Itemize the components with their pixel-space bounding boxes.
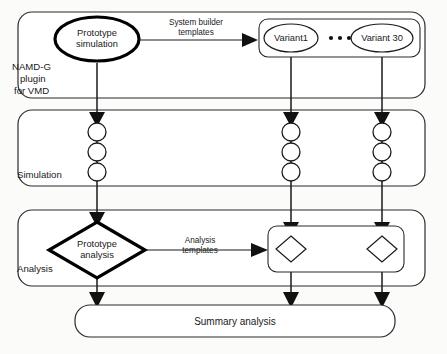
node-prototype-analysis-label-line1: Prototype [77, 239, 117, 249]
sim-step-lane2-1[interactable] [282, 123, 300, 141]
sim-step-lane3-2[interactable] [373, 143, 391, 161]
node-summary-analysis-label: Summary analysis [194, 316, 276, 327]
section-box-simulation [18, 110, 425, 186]
sim-step-lane1-2[interactable] [88, 143, 106, 161]
edge-analysis-templates-label-line2: templates [182, 246, 218, 255]
edge-analysis-templates-label-line1: Analysis [185, 236, 216, 245]
sim-step-lane1-1[interactable] [88, 123, 106, 141]
sim-step-lane1-3[interactable] [88, 163, 106, 181]
sim-step-lane3-1[interactable] [373, 123, 391, 141]
node-prototype-simulation-label-line2: simulation [76, 39, 118, 49]
section-label-analysis: Analysis [17, 263, 53, 274]
node-prototype-analysis-label-line2: analysis [80, 250, 114, 260]
edge-system-builder-label-line1: System builder [169, 18, 223, 27]
edge-system-builder-label-line2: templates [178, 28, 214, 37]
diagram-root: Prototype simulation System builder temp… [0, 0, 447, 354]
sim-step-lane3-3[interactable] [373, 163, 391, 181]
sim-step-lane2-2[interactable] [282, 143, 300, 161]
node-prototype-simulation-label-line1: Prototype [77, 28, 117, 38]
section-label-namd-g-line2: plugin [20, 73, 46, 84]
section-label-namd-g-line1: NAMD-G [12, 61, 51, 72]
sim-step-lane2-3[interactable] [282, 163, 300, 181]
workflow-diagram-canvas: Prototype simulation System builder temp… [0, 0, 447, 354]
section-label-namd-g-line3: for VMD [14, 85, 49, 96]
section-label-simulation: Simulation [17, 169, 62, 180]
node-variant-last-label: Variant 30 [361, 33, 403, 43]
node-variant-first-label: Variant1 [274, 33, 308, 43]
variants-ellipsis-icon [329, 36, 351, 40]
